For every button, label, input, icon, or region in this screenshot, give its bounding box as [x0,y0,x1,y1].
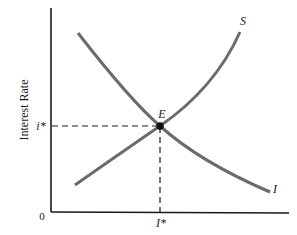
y-axis-label: Interest Rate [17,80,31,141]
investment-curve-label: I [272,182,278,196]
i-star-label: i* [36,119,45,133]
saving-curve-label: S [240,14,246,28]
origin-label: 0 [39,210,45,222]
equilibrium-point [156,122,164,130]
saving-investment-chart: Interest Rate 0 i* I* E S I [0,0,297,235]
x-axis [51,212,289,213]
investment-curve [78,33,270,192]
I-star-label: I* [155,216,166,230]
equilibrium-label: E [157,107,166,121]
